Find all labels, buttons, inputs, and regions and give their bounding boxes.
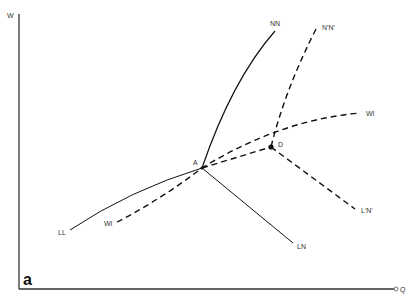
point-d-label: D — [278, 141, 283, 148]
curve-nn-label: NN — [270, 20, 280, 27]
curve-l-prime-n-prime — [271, 147, 355, 209]
x-axis-end-marker — [394, 287, 398, 291]
curve-ln — [202, 168, 293, 243]
curve-l-prime-n-prime-label: L'N' — [361, 207, 373, 214]
point-a-label: A — [193, 159, 198, 166]
curve-n-prime-n-prime-label: N'N' — [322, 24, 335, 31]
point-d-marker — [268, 144, 273, 149]
curve-wi-lower-label: WI — [104, 220, 113, 227]
curve-ln-label: LN — [297, 243, 306, 250]
panel-label: a — [23, 271, 32, 288]
curve-ll — [70, 168, 202, 230]
curve-ll-label: LL — [58, 229, 66, 236]
diagram-canvas: W Q A D NN N'N' WI WI LL LN L'N' a — [0, 0, 413, 300]
point-a-marker — [200, 166, 203, 169]
x-axis-label: Q — [400, 286, 406, 294]
curve-a-to-d — [202, 147, 271, 168]
y-axis-label: W — [7, 12, 14, 19]
curve-wi-upper-label: WI — [366, 110, 375, 117]
curve-wi — [117, 113, 360, 222]
curve-n-prime-n-prime — [271, 29, 316, 147]
